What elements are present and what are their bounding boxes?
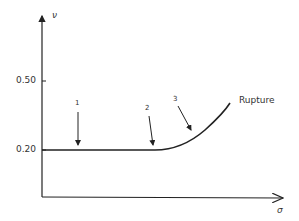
x-axis (42, 197, 283, 198)
diagram-canvas (0, 0, 299, 221)
y-axis-label: ν (52, 11, 57, 20)
curve (42, 103, 230, 150)
x-axis-label: σ (277, 206, 283, 215)
marker-label-3: 3 (173, 96, 177, 103)
marker-label-1: 1 (75, 100, 79, 107)
marker-label-2: 2 (145, 105, 149, 112)
rupture-label: Rupture (239, 96, 275, 105)
arrow-3 (178, 106, 191, 130)
arrow-2 (149, 116, 153, 145)
y-tick-label-050: 0.50 (16, 76, 36, 85)
y-tick-label-020: 0.20 (16, 145, 36, 154)
